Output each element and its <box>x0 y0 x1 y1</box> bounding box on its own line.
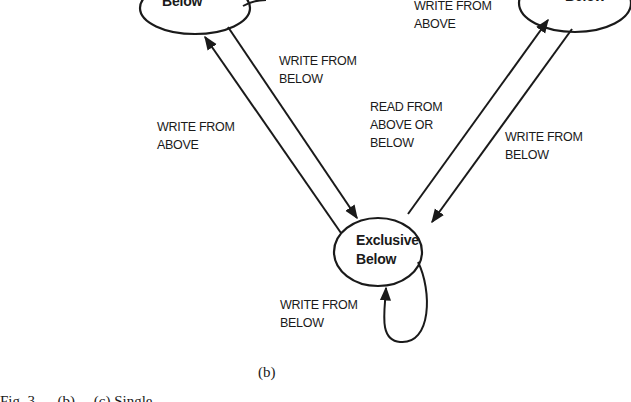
transition-label-self-loop: WRITE FROM BELOW <box>280 296 358 332</box>
state-label-right-line2: Below <box>565 0 605 6</box>
transition-label-read-from-above-or-below: READ FROM ABOVE OR BELOW <box>370 98 442 152</box>
transition-label-write-from-above-right: WRITE FROM ABOVE <box>414 0 492 33</box>
figure-caption-partial: Fig. 3. ... (b) ... (c) Single ... <box>0 393 631 402</box>
transition-label-write-from-below-left: WRITE FROM BELOW <box>279 52 357 88</box>
state-label-right: Below <box>565 0 605 6</box>
arrow-right-to-exclusive <box>432 29 572 222</box>
subfigure-label: (b) <box>258 364 276 381</box>
state-diagram: Below Below Exclusive Below WRITE FROM A… <box>0 0 631 402</box>
state-label-left-line2: Below <box>162 0 202 11</box>
transition-label-write-from-above-left: WRITE FROM ABOVE <box>157 118 235 154</box>
state-label-exclusive: Exclusive Below <box>356 231 419 269</box>
state-label-left: Below <box>162 0 202 11</box>
transition-label-write-from-below-right: WRITE FROM BELOW <box>505 128 583 164</box>
